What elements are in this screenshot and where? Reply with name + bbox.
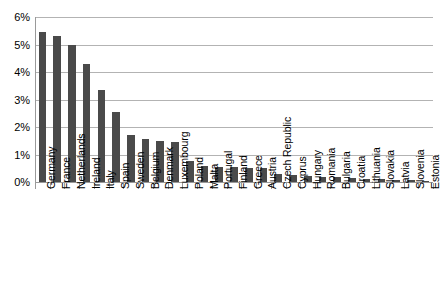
x-axis-label: Romania bbox=[326, 148, 337, 189]
x-axis-label: Bulgaria bbox=[341, 151, 352, 189]
x-axis-label: Greece bbox=[253, 155, 264, 189]
y-tick-label: 3% bbox=[14, 94, 30, 105]
x-axis-label: Luxembourg bbox=[179, 132, 190, 189]
x-axis-label: Poland bbox=[194, 157, 205, 189]
x-axis-label: Italy bbox=[105, 170, 116, 189]
y-tick-label: 1% bbox=[14, 149, 30, 160]
y-axis: 0%1%2%3%4%5%6% bbox=[0, 0, 34, 190]
x-axis-label: Germany bbox=[46, 147, 57, 189]
x-axis-label: Malta bbox=[209, 164, 220, 189]
y-tick-label: 5% bbox=[14, 39, 30, 50]
x-axis-label: Cyprus bbox=[297, 156, 308, 189]
x-axis-label: Latvia bbox=[400, 162, 411, 189]
x-axis-label: Lithuania bbox=[371, 147, 382, 189]
x-axis-label: Ireland bbox=[91, 158, 102, 189]
bar-chart: 0%1%2%3%4%5%6% GermanyFranceNetherlandsI… bbox=[0, 0, 447, 284]
x-axis-label: Sweden bbox=[135, 152, 146, 189]
y-axis-line bbox=[35, 17, 36, 183]
x-axis-label: Croatia bbox=[356, 156, 367, 189]
x-axis-label: Netherlands bbox=[76, 133, 87, 189]
y-tick-label: 0% bbox=[14, 177, 30, 188]
x-axis-label: Slovenia bbox=[415, 150, 426, 189]
x-axis-label: France bbox=[61, 157, 72, 189]
x-axis-label: Austria bbox=[267, 157, 278, 189]
x-axis-label: Slovakia bbox=[385, 150, 396, 189]
x-axis-label: Estonia bbox=[430, 155, 441, 189]
x-axis-label: Spain bbox=[120, 163, 131, 189]
y-tick-label: 2% bbox=[14, 122, 30, 133]
x-axis-label: Czech Republic bbox=[282, 117, 293, 189]
x-axis-category-labels: GermanyFranceNetherlandsIrelandItalySpai… bbox=[35, 189, 433, 284]
x-axis-label: Finland bbox=[238, 155, 249, 189]
x-axis-label: Portugal bbox=[223, 151, 234, 189]
x-axis-label: Hungary bbox=[312, 150, 323, 189]
y-tick-label: 6% bbox=[14, 12, 30, 23]
x-axis-label: Belgium bbox=[150, 152, 161, 189]
y-tick-label: 4% bbox=[14, 67, 30, 78]
x-axis-label: Denmark bbox=[164, 147, 175, 189]
